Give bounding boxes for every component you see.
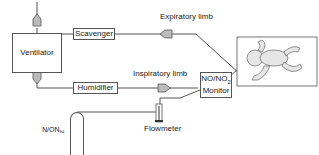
no-gas-cylinder: NO/N2: [70, 112, 84, 155]
inspiratory-limb-label: Inspiratory limb: [133, 69, 187, 78]
humidifier-box: Humidifier: [73, 82, 118, 94]
flowmeter-icon: [155, 104, 163, 122]
ventilator-box: Ventilator: [12, 33, 62, 73]
monitor-title: NO/NO2: [201, 74, 231, 87]
expiratory-limb-label: Expiratory limb: [160, 12, 213, 21]
monitor-box: NO/NO2 Monitor: [200, 72, 232, 98]
monitor-subtitle: Monitor: [203, 86, 230, 96]
scavenger-box: Scavenger: [73, 28, 115, 40]
flowmeter-label: Flowmeter: [144, 124, 181, 133]
no-gas-label: NO/N2: [59, 130, 68, 133]
